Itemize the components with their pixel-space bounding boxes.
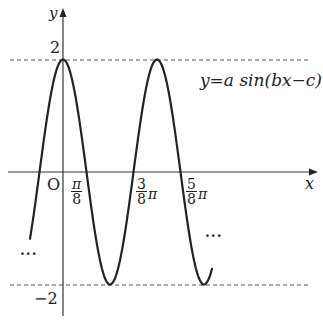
tick-label-5pi-over-8: 5 8: [186, 177, 197, 206]
tick-denominator: 8: [137, 192, 146, 206]
tick-label-3pi-over-8: 3 8: [136, 177, 147, 206]
tick-label-pi-over-8: π 8: [71, 177, 82, 206]
x-axis-label: x: [305, 174, 314, 193]
tick-denominator: 8: [187, 192, 196, 206]
tick-pi-suffix: π: [148, 186, 157, 202]
y-max-label: 2: [50, 38, 60, 57]
y-axis-label: y: [49, 4, 57, 22]
sine-graph: [0, 0, 323, 324]
tick-numerator: π: [71, 177, 82, 192]
ellipsis-right: ···: [205, 228, 223, 244]
y-min-label: −2: [34, 289, 58, 308]
ellipsis-left: ···: [20, 246, 38, 262]
origin-label: O: [47, 175, 60, 194]
tick-numerator: 3: [136, 177, 147, 192]
tick-numerator: 5: [186, 177, 197, 192]
equation-label: y=a sin(bx−c): [200, 70, 322, 90]
tick-denominator: 8: [72, 192, 81, 206]
tick-pi-suffix: π: [198, 186, 207, 202]
y-axis-arrow-icon: [60, 8, 67, 17]
